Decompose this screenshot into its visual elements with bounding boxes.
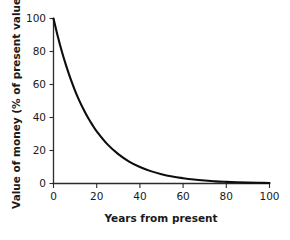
x-axis-tick-labels: 0 20 40 60 80 100 <box>50 190 279 202</box>
y-axis-title: Value of money (% of present value) <box>10 0 22 209</box>
data-series-line <box>54 19 270 183</box>
x-tick-label-20: 20 <box>90 190 103 202</box>
y-tick-label-100: 100 <box>26 12 46 24</box>
y-axis-tick-labels: 100 80 60 40 20 0 <box>26 12 46 189</box>
x-tick-label-0: 0 <box>50 190 57 202</box>
x-axis-title: Years from present <box>103 212 217 224</box>
chart-plot-area: 100 80 60 40 20 0 0 20 40 60 80 100 Year… <box>0 0 290 240</box>
x-tick-label-80: 80 <box>220 190 233 202</box>
x-tick-label-40: 40 <box>133 190 146 202</box>
x-tick-label-100: 100 <box>259 190 279 202</box>
y-tick-label-80: 80 <box>33 45 46 57</box>
y-tick-label-40: 40 <box>33 111 46 123</box>
x-axis-ticks <box>54 184 270 189</box>
chart-figure: 100 80 60 40 20 0 0 20 40 60 80 100 Year… <box>0 0 290 240</box>
y-tick-label-0: 0 <box>39 177 46 189</box>
y-tick-label-20: 20 <box>33 144 46 156</box>
x-tick-label-60: 60 <box>176 190 189 202</box>
y-tick-label-60: 60 <box>33 78 46 90</box>
